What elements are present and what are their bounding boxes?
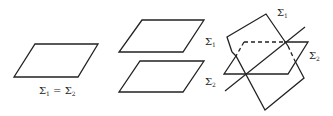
panel-parallel (119, 20, 204, 92)
label-intersecting-sigma1: Σ1 (277, 8, 288, 19)
label-intersecting-sigma2: Σ2 (309, 51, 320, 62)
label-sigma: Σ (65, 85, 72, 96)
plane-sigma1-lower (232, 52, 304, 110)
panel-coincident (14, 44, 98, 77)
label-coincident: Σ1 = Σ2 (39, 86, 76, 97)
plane-sigma1 (119, 20, 204, 52)
label-parallel-sigma2: Σ2 (205, 77, 216, 88)
label-parallel-sigma1: Σ1 (205, 37, 216, 48)
plane-sigma1-hidden-edge (288, 46, 294, 59)
label-subscript: 1 (284, 12, 288, 19)
label-subscript: 2 (212, 81, 216, 88)
label-subscript: 2 (316, 55, 320, 62)
plane-sigma2 (119, 61, 204, 92)
panel-intersecting (224, 14, 308, 110)
plane-sigma2-hidden-edge-left (236, 42, 244, 56)
label-subscript: 2 (72, 90, 76, 97)
label-subscript: 1 (212, 41, 216, 48)
plane-sigma1-sigma2 (14, 44, 98, 77)
plane-sigma1 (227, 14, 288, 52)
label-equals: = (50, 85, 65, 96)
